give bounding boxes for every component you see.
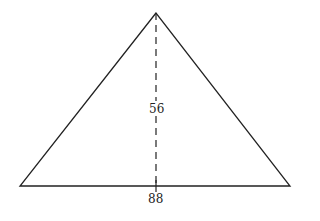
- triangle: [20, 13, 290, 186]
- height-label: 56: [149, 103, 164, 115]
- base-label: 88: [148, 193, 163, 205]
